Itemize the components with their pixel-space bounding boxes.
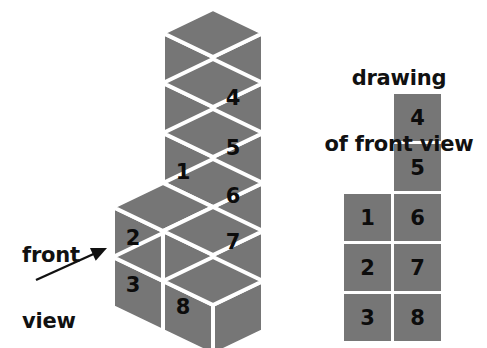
figure-canvas: 45162738 45162738 drawing of front view … [0, 0, 487, 348]
grid-cell-3: 3 [355, 305, 381, 331]
cube-face-1: 1 [170, 159, 196, 185]
cube-face-7: 7 [220, 229, 246, 255]
cube-face-2: 2 [120, 225, 146, 251]
front-view-line-2: view [22, 310, 80, 332]
drawing-of-front-view-title: drawing of front view [318, 22, 480, 200]
drawing-title-line-2: of front view [318, 133, 480, 155]
grid-cell-2: 2 [355, 255, 381, 281]
cube-face-4: 4 [220, 85, 246, 111]
front-view-line-1: front [22, 244, 80, 266]
grid-cell-7: 7 [405, 255, 431, 281]
cube-face-5: 5 [220, 135, 246, 161]
grid-cell-6: 6 [405, 205, 431, 231]
front-view-caption: front view [22, 199, 80, 348]
grid-cell-1: 1 [355, 205, 381, 231]
grid-cell-8: 8 [405, 305, 431, 331]
drawing-title-line-1: drawing [318, 67, 480, 89]
cube-face-3: 3 [120, 272, 146, 298]
cube-face-8: 8 [170, 294, 196, 320]
cube-face-6: 6 [220, 183, 246, 209]
